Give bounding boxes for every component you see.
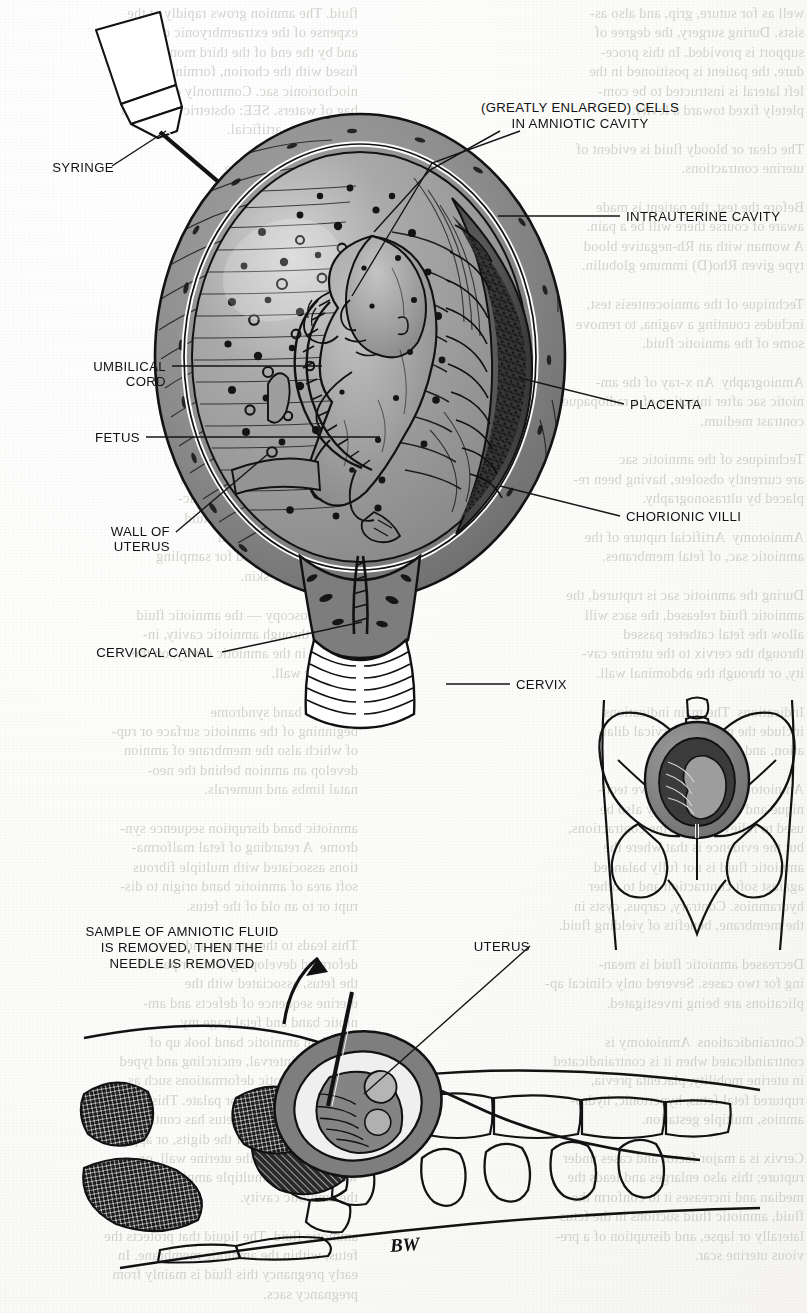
label-uterus: UTERUS bbox=[420, 939, 530, 954]
label-intrauterine-cavity: INTRAUTERINE CAVITY bbox=[626, 209, 780, 224]
label-sample-line1: SAMPLE OF AMNIOTIC FLUID bbox=[22, 924, 342, 939]
label-cells-line1: (GREATLY ENLARGED) CELLS bbox=[415, 100, 745, 115]
label-wall-of-uterus-line2: UTERUS bbox=[8, 539, 170, 554]
label-cervical-canal: CERVICAL CANAL bbox=[8, 645, 214, 660]
label-umbilical-cord-line1: UMBILICAL bbox=[8, 359, 166, 374]
cervix-graphic bbox=[300, 556, 420, 728]
uterus-cutaway bbox=[155, 114, 572, 728]
label-chorionic-villi: CHORIONIC VILLI bbox=[626, 509, 741, 524]
pelvis-anterior-inset bbox=[599, 698, 794, 951]
label-cells-line2: IN AMNIOTIC CAVITY bbox=[415, 116, 745, 131]
leader-syringe bbox=[112, 131, 166, 166]
intestine-loops bbox=[421, 1140, 664, 1206]
pelvis-sagittal-view bbox=[81, 958, 760, 1268]
label-sample-line3: NEEDLE IS REMOVED bbox=[22, 956, 342, 971]
artist-signature: BW bbox=[389, 1233, 420, 1257]
label-cervix: CERVIX bbox=[516, 677, 567, 692]
scanned-page: fluid. The amnion grows rapidly at the e… bbox=[0, 0, 807, 1313]
label-syringe: SYRINGE bbox=[8, 160, 114, 175]
label-placenta: PLACENTA bbox=[630, 397, 701, 412]
label-wall-of-uterus-line1: WALL OF bbox=[8, 524, 170, 539]
syringe-graphic bbox=[96, 12, 182, 138]
label-sample-line2: IS REMOVED, THEN THE bbox=[22, 940, 342, 955]
label-fetus: FETUS bbox=[8, 430, 140, 445]
label-umbilical-cord-line2: CORD bbox=[8, 374, 166, 389]
